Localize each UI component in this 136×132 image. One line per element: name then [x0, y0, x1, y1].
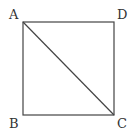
- square-diagram: A D B C: [0, 0, 136, 132]
- diagonal-ac: [23, 22, 114, 115]
- vertex-label-b: B: [9, 116, 19, 131]
- vertex-label-d: D: [117, 7, 127, 22]
- vertex-label-c: C: [117, 116, 127, 131]
- vertex-label-a: A: [8, 7, 19, 22]
